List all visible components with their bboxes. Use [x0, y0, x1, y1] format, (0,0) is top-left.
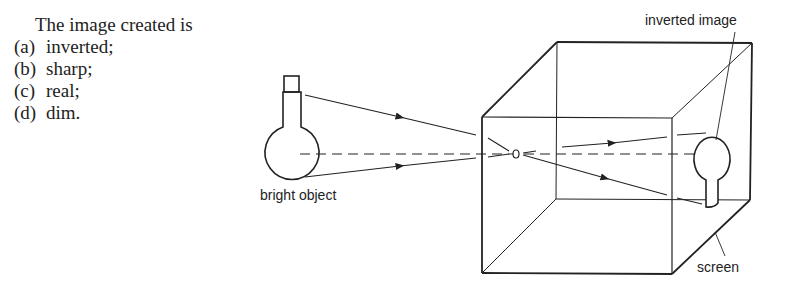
light-rays — [305, 95, 706, 204]
screen-leader — [715, 232, 725, 256]
inverted-image-label: inverted image — [645, 12, 737, 28]
pinhole-icon — [513, 150, 519, 158]
box-front-face — [482, 117, 672, 274]
screen-label: screen — [697, 259, 739, 275]
pinhole-camera-diagram: bright object inverted image screen — [0, 0, 796, 281]
inverted-image-bulb-icon — [694, 137, 730, 207]
inverted-image-leader — [716, 32, 735, 140]
bright-object-bulb-icon — [265, 76, 319, 179]
bright-object-label: bright object — [260, 187, 336, 203]
